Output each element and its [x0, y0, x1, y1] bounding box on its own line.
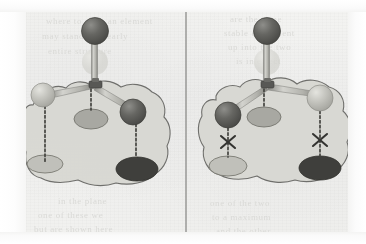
left-right-shadow-ellipse [116, 157, 158, 181]
left-tetrahedral-hub [89, 78, 102, 88]
page-top-edge [0, 0, 366, 12]
left-center-shadow-ellipse [74, 109, 108, 129]
page-left-edge [0, 0, 26, 244]
figure-stage: where to view an element may stand for n… [0, 0, 366, 244]
page-bottom-edge [0, 232, 366, 244]
left-arm-sphere-light [31, 83, 55, 107]
right-apex-sphere-dark [254, 18, 281, 45]
right-arm-sphere-light [307, 85, 333, 111]
left-arm-sphere-dark [120, 99, 146, 125]
page-right-edge [348, 0, 366, 244]
left-left-shadow-ellipse [27, 155, 63, 173]
left-panel [22, 18, 170, 186]
right-panel [198, 18, 350, 183]
right-right-shadow-ellipse [299, 156, 341, 180]
right-left-shadow-ellipse [209, 156, 247, 176]
left-apex-sphere-dark [82, 18, 109, 45]
right-center-shadow-ellipse [247, 107, 281, 127]
figure-svg [0, 0, 366, 244]
right-arm-sphere-dark [215, 102, 241, 128]
